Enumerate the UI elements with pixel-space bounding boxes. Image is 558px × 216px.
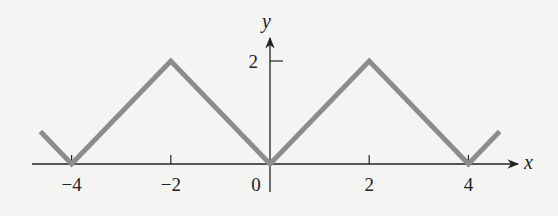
x-tick-label: −2: [161, 174, 181, 195]
x-tick-label: 0: [251, 174, 261, 195]
x-tick-label: 2: [364, 174, 374, 195]
triangle-wave-plot: −4−2024 2 x y: [0, 0, 558, 216]
y-axis-label: y: [260, 10, 271, 33]
y-ticks: 2: [249, 51, 284, 72]
x-tick-label: 4: [464, 174, 474, 195]
x-axis-label: x: [523, 151, 533, 173]
x-tick-label: −4: [61, 174, 82, 195]
y-tick-label: 2: [249, 51, 259, 72]
